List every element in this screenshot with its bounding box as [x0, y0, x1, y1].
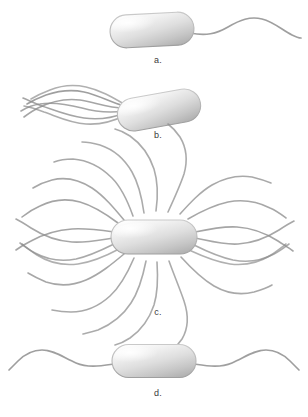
flagellum-group-b [21, 86, 126, 125]
panel-label-b: b. [143, 130, 173, 140]
cell-body-a [109, 11, 195, 48]
cell-body-b [115, 86, 203, 133]
panel-a-illustration [109, 11, 301, 48]
panel-label-a: a. [143, 55, 173, 65]
flagellum-c-9 [16, 229, 114, 250]
flagellum-c-7 [180, 176, 271, 214]
cell-body-d [112, 345, 196, 378]
flagellum-c-5 [115, 129, 157, 211]
flagellum-d-left [9, 350, 114, 370]
panel-c-illustration [16, 124, 294, 352]
flagellum-c-17 [83, 261, 146, 334]
flagellum-c-18 [115, 262, 158, 345]
flagellum-c-1 [22, 200, 118, 223]
cell-highlight-c [114, 223, 166, 241]
panel-label-d: d. [143, 388, 173, 398]
cell-body-c [111, 220, 197, 254]
flagellum-c-13 [195, 221, 294, 244]
flagellum-c-4 [82, 142, 144, 213]
cell-highlight-d [114, 347, 166, 365]
panel-d-illustration [9, 345, 299, 378]
panel-label-c: c. [143, 307, 173, 317]
flagellum-group-a [190, 18, 301, 38]
flagellum-b-5 [24, 106, 126, 124]
flagellum-c-22 [22, 244, 119, 265]
flagellum-c-20 [181, 257, 272, 294]
flagellum-c-2 [33, 179, 124, 220]
panel-b-illustration [21, 86, 203, 134]
flagellum-d-right [194, 350, 299, 370]
flagellum-b-2 [24, 99, 124, 117]
flagellum-a-1 [190, 18, 301, 38]
flagellum-c-8 [188, 201, 286, 219]
bacteria-flagella-figure: a. b. c. d. [0, 0, 308, 417]
